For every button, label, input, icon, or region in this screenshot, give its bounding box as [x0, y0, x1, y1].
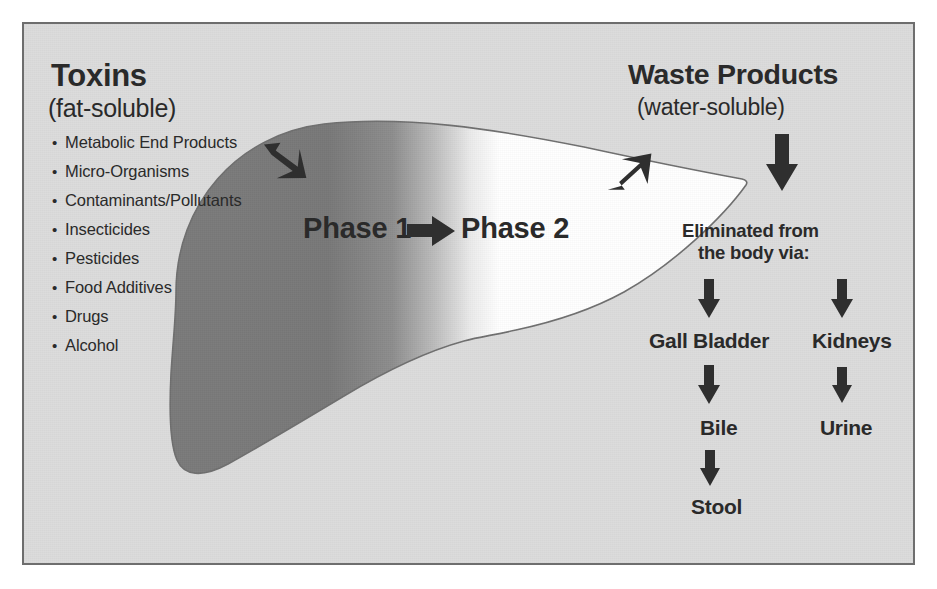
urine-label: Urine	[820, 416, 872, 440]
arrow-down-icon	[698, 448, 722, 488]
bile-label: Bile	[700, 416, 737, 440]
arrow-down-icon	[830, 365, 854, 405]
eliminated-line-1: Eliminated from	[682, 220, 819, 242]
phase-2-label: Phase 2	[461, 212, 569, 245]
arrow-down-icon	[829, 277, 855, 321]
list-item: Pesticides	[52, 244, 242, 273]
gall-bladder-label: Gall Bladder	[649, 329, 769, 353]
arrow-down-right-icon	[256, 136, 312, 192]
diagram-page: Toxins (fat-soluble) Metabolic End Produ…	[0, 0, 937, 589]
arrow-right-icon	[405, 214, 457, 248]
waste-products-subtitle: (water-soluble)	[637, 94, 785, 121]
kidneys-label: Kidneys	[812, 329, 892, 353]
list-item: Drugs	[52, 302, 242, 331]
arrow-down-icon	[764, 132, 800, 194]
toxins-list: Metabolic End Products Micro-Organisms C…	[52, 128, 242, 360]
waste-products-title: Waste Products	[628, 58, 838, 91]
toxins-title: Toxins	[51, 58, 147, 94]
list-item: Contaminants/Pollutants	[52, 186, 242, 215]
phase-1-label: Phase 1	[303, 212, 411, 245]
arrow-down-icon	[696, 363, 722, 407]
diagram-frame: Toxins (fat-soluble) Metabolic End Produ…	[22, 22, 915, 565]
list-item: Micro-Organisms	[52, 157, 242, 186]
stool-label: Stool	[691, 495, 742, 519]
list-item: Insecticides	[52, 215, 242, 244]
arrow-up-right-icon	[602, 144, 658, 200]
toxins-subtitle: (fat-soluble)	[48, 94, 176, 123]
eliminated-line-2: the body via:	[698, 242, 810, 264]
list-item: Food Additives	[52, 273, 242, 302]
list-item: Metabolic End Products	[52, 128, 242, 157]
list-item: Alcohol	[52, 331, 242, 360]
arrow-down-icon	[696, 277, 722, 321]
